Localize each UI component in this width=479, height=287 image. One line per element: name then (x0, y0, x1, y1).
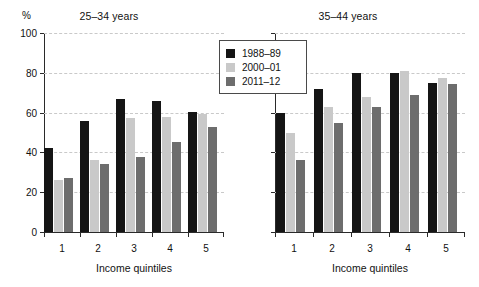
legend: 1988–892000–012011–12 (219, 40, 307, 94)
bar-q3-2000–01 (126, 118, 135, 232)
bar-q1-2000–01 (54, 180, 63, 232)
bar-q2-1988–89 (80, 121, 89, 232)
x-tick-label-2: 2 (329, 243, 335, 254)
y-tick-label-80: 80 (7, 67, 37, 78)
x-tick-2 (351, 233, 352, 237)
panel-title-25-34: 25–34 years (14, 10, 204, 22)
legend-item-2011–12: 2011–12 (226, 74, 300, 88)
bar-q1-1988–89 (44, 148, 53, 232)
legend-label: 1988–89 (242, 48, 281, 59)
x-tick-3 (152, 233, 153, 237)
y-tick-100 (40, 33, 44, 34)
x-tick-label-1: 1 (291, 243, 297, 254)
x-axis-line (275, 232, 465, 233)
bar-q5-1988–89 (188, 112, 197, 232)
y-tick-20 (271, 192, 275, 193)
x-tick-label-2: 2 (95, 243, 101, 254)
bar-q3-2000–01 (362, 97, 371, 232)
bar-q4-2000–01 (400, 71, 409, 232)
y-tick-80 (40, 73, 44, 74)
x-axis-line (44, 232, 224, 233)
bar-q4-2011–12 (410, 95, 419, 232)
bar-q4-1988–89 (152, 101, 161, 232)
y-tick-40 (271, 152, 275, 153)
gridline-100 (44, 33, 224, 34)
panel-25-34-years: % 25–34 years 02040608010012345Income qu… (0, 0, 233, 287)
bar-q1-1988–89 (276, 113, 285, 232)
bar-q1-2011–12 (64, 178, 73, 232)
bar-q5-2000–01 (438, 78, 447, 232)
legend-item-2000–01: 2000–01 (226, 60, 300, 74)
bar-q1-2000–01 (286, 133, 295, 233)
bar-q2-2000–01 (90, 160, 99, 232)
x-tick-label-4: 4 (405, 243, 411, 254)
bar-q2-2000–01 (324, 107, 333, 232)
x-tick-end (223, 233, 224, 237)
x-tick-label-3: 3 (131, 243, 137, 254)
y-tick-label-0: 0 (7, 227, 37, 238)
y-tick-100 (271, 33, 275, 34)
bar-q3-2011–12 (136, 157, 145, 232)
bar-q4-2000–01 (162, 117, 171, 232)
x-axis-title: Income quintiles (275, 262, 465, 274)
x-tick-label-5: 5 (443, 243, 449, 254)
bar-q2-1988–89 (314, 89, 323, 232)
x-tick-1 (80, 233, 81, 237)
bar-q2-2011–12 (334, 123, 343, 232)
gridline-80 (44, 73, 224, 74)
x-tick-end (464, 233, 465, 237)
x-tick-1 (313, 233, 314, 237)
x-tick-0 (44, 233, 45, 237)
bar-q3-1988–89 (116, 99, 125, 232)
bar-q4-2011–12 (172, 142, 181, 232)
x-tick-label-4: 4 (167, 243, 173, 254)
bar-q4-1988–89 (390, 73, 399, 232)
bar-q5-2011–12 (208, 127, 217, 232)
y-tick-label-20: 20 (7, 187, 37, 198)
legend-item-1988–89: 1988–89 (226, 46, 300, 60)
panel-title-35-44: 35–44 years (243, 10, 453, 22)
bar-q5-2000–01 (198, 114, 207, 232)
x-tick-3 (389, 233, 390, 237)
legend-swatch-icon-2011–12 (226, 77, 235, 86)
x-axis-title: Income quintiles (44, 262, 224, 274)
gridline-100 (275, 33, 465, 34)
grouped-bar-chart-figure: % 25–34 years 02040608010012345Income qu… (0, 0, 479, 287)
bar-q5-2011–12 (448, 84, 457, 232)
plot-area-25-34: 02040608010012345Income quintiles (44, 33, 224, 233)
y-tick-60 (40, 113, 44, 114)
legend-swatch-icon-2000–01 (226, 63, 235, 72)
bar-q3-1988–89 (352, 73, 361, 232)
bar-q1-2011–12 (296, 160, 305, 232)
x-tick-4 (427, 233, 428, 237)
y-tick-label-60: 60 (7, 107, 37, 118)
legend-label: 2011–12 (242, 76, 280, 87)
x-tick-0 (275, 233, 276, 237)
x-tick-label-1: 1 (59, 243, 65, 254)
bar-q3-2011–12 (372, 107, 381, 232)
legend-swatch-icon-1988–89 (226, 49, 235, 58)
legend-label: 2000–01 (242, 62, 281, 73)
x-tick-label-5: 5 (203, 243, 209, 254)
x-tick-4 (188, 233, 189, 237)
y-tick-60 (271, 113, 275, 114)
x-tick-2 (116, 233, 117, 237)
y-tick-label-100: 100 (7, 28, 37, 39)
x-tick-label-3: 3 (367, 243, 373, 254)
y-tick-label-40: 40 (7, 147, 37, 158)
bar-q5-1988–89 (428, 83, 437, 232)
bar-q2-2011–12 (100, 164, 109, 232)
